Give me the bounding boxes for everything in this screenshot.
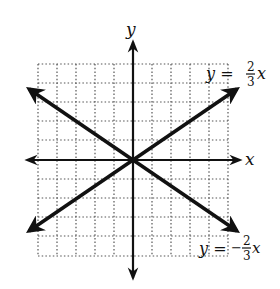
equation-sign: − [231,240,242,255]
equation-variable: x [252,239,261,257]
fraction-denominator: 3 [247,75,255,89]
coordinate-graph: y x y = 2 3 x y = − 2 3 x [0,0,280,289]
equation-label-positive: y = 2 3 x [205,60,266,89]
fraction-numerator: 2 [247,60,255,74]
equation-lhs: y = [198,239,227,258]
y-axis-label: y [125,19,136,39]
equation-variable: x [257,64,266,83]
x-axis-label: x [245,149,255,169]
fraction-numerator: 2 [243,234,251,248]
equation-lhs: y = [205,64,234,83]
equation-label-negative: y = − 2 3 x [198,234,261,263]
fraction-denominator: 3 [243,249,251,263]
